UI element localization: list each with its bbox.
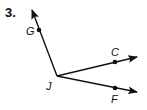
ray-jc: C xyxy=(57,46,137,76)
label-j: J xyxy=(45,80,52,92)
label-c: C xyxy=(111,46,119,58)
ray-jg: G xyxy=(26,10,57,76)
angle-diagram: 3. G C F J xyxy=(0,0,147,110)
point-g xyxy=(37,28,42,33)
point-f xyxy=(113,86,118,91)
ray-jf: F xyxy=(57,76,137,105)
label-f: F xyxy=(111,93,119,105)
problem-number: 3. xyxy=(5,5,16,20)
label-g: G xyxy=(26,25,35,37)
point-c xyxy=(113,60,118,65)
